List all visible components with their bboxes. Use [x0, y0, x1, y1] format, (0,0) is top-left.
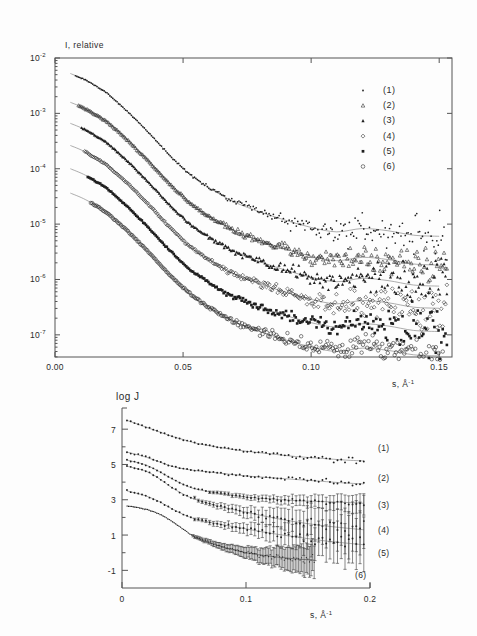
- curve-label-3: (3): [378, 500, 390, 510]
- legend-marker-diamond-open: [361, 134, 365, 138]
- y-axis-title: I, relative: [65, 40, 104, 50]
- x-axis-title: s, Å-1: [310, 610, 333, 621]
- x-axis-title: s, Å-1: [392, 379, 415, 390]
- data-series-3: [126, 459, 365, 515]
- y-tick-label: 10-3: [30, 107, 46, 118]
- figure-canvas: 10-210-310-410-510-610-70.000.050.100.15…: [0, 0, 477, 636]
- y-tick-label: 5: [111, 460, 116, 470]
- y-tick-label: 1: [111, 531, 116, 541]
- legend-label-5: (5): [383, 146, 396, 156]
- y-tick-label: 3: [111, 495, 116, 505]
- fit-curve-5: [127, 491, 364, 545]
- legend-marker-dot: [362, 90, 364, 92]
- legend-label-2: (2): [383, 100, 396, 110]
- fit-curve-5: [70, 169, 439, 332]
- y-tick-label: 7: [111, 425, 116, 435]
- legend-marker-triangle-open: [361, 104, 365, 107]
- legend-marker-square-filled: [362, 150, 365, 153]
- x-tick-label: 0.05: [174, 362, 192, 372]
- y-tick-label: 10-7: [30, 329, 46, 340]
- curve-label-4: (4): [378, 525, 390, 535]
- data-series-2: [126, 451, 365, 486]
- curve-label-1: (1): [378, 443, 390, 453]
- curve-label-5: (5): [378, 548, 390, 558]
- top-panel: 10-210-310-410-510-610-70.000.050.100.15…: [30, 40, 452, 389]
- curve-label-6: (6): [355, 570, 367, 580]
- y-tick-label: 10-5: [30, 218, 46, 229]
- legend-marker-triangle-filled: [361, 119, 364, 122]
- figure-root: 10-210-310-410-510-610-70.000.050.100.15…: [0, 0, 477, 636]
- x-tick-label: 0.00: [46, 362, 64, 372]
- legend-marker-circle-open: [361, 165, 365, 169]
- y-tick-label: 10-6: [30, 273, 46, 284]
- fit-curve-1: [127, 420, 364, 461]
- data-series-5: [86, 176, 448, 360]
- x-tick-label: 0.15: [430, 362, 448, 372]
- x-tick-label: 0.10: [302, 362, 320, 372]
- legend-label-6: (6): [383, 161, 396, 171]
- x-tick-label: 0: [119, 594, 124, 604]
- legend-label-1: (1): [383, 85, 396, 95]
- curve-label-2: (2): [378, 473, 390, 483]
- fit-curve-2: [127, 452, 364, 484]
- y-axis-title: log J: [116, 391, 140, 402]
- legend-label-3: (3): [383, 115, 396, 125]
- x-tick-label: 0.1: [240, 594, 253, 604]
- legend: (1)(2)(3)(4)(5)(6): [361, 85, 395, 171]
- data-series-1: [126, 420, 365, 465]
- y-tick-label: -1: [108, 566, 116, 576]
- bottom-panel: 7531-100.10.2log Js, Å-1(1)(2)(3)(4)(5)(…: [108, 391, 390, 620]
- fit-curve-6: [70, 193, 439, 356]
- y-tick-label: 10-4: [30, 163, 46, 174]
- data-series-6: [126, 505, 315, 578]
- x-tick-label: 0.2: [364, 594, 377, 604]
- legend-label-4: (4): [383, 131, 396, 141]
- y-tick-label: 10-2: [30, 52, 46, 63]
